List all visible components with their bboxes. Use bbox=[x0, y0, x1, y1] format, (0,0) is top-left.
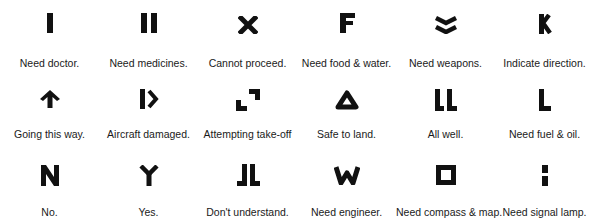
signal-label: Safe to land. bbox=[297, 128, 396, 141]
x-cross-icon bbox=[238, 16, 258, 34]
signal-need-medicines: Need medicines. bbox=[99, 0, 198, 75]
letter-y-icon bbox=[139, 165, 159, 186]
square-icon bbox=[435, 165, 457, 185]
signal-need-compass-map: Need compass & map. bbox=[396, 150, 495, 223]
single-bar-icon bbox=[45, 13, 55, 33]
letter-f-icon bbox=[339, 13, 355, 33]
signal-need-fuel-oil: Need fuel & oil. bbox=[495, 75, 594, 150]
signal-need-weapons: Need weapons. bbox=[396, 0, 495, 75]
signal-label: Need compass & map. bbox=[396, 206, 495, 219]
signal-cannot-proceed: Cannot proceed. bbox=[198, 0, 297, 75]
signal-label: Going this way. bbox=[0, 128, 99, 141]
bar-and-chevron-icon bbox=[139, 89, 159, 109]
signal-label: No. bbox=[0, 206, 99, 219]
letter-n-icon bbox=[40, 165, 60, 186]
signal-label: Need medicines. bbox=[99, 57, 198, 70]
signal-need-food-water: Need food & water. bbox=[297, 0, 396, 75]
signal-need-doctor: Need doctor. bbox=[0, 0, 99, 75]
signal-label: Yes. bbox=[99, 206, 198, 219]
signal-need-engineer: Need engineer. bbox=[297, 150, 396, 223]
signal-label: Indicate direction. bbox=[495, 57, 594, 70]
signal-all-well: All well. bbox=[396, 75, 495, 150]
signal-indicate-direction: Indicate direction. bbox=[495, 0, 594, 75]
signal-attempting-take-off: Attempting take-off bbox=[198, 75, 297, 150]
split-bar-icon bbox=[541, 165, 549, 187]
double-bar-icon bbox=[140, 13, 158, 33]
signal-label: All well. bbox=[396, 128, 495, 141]
signal-yes: Yes. bbox=[99, 150, 198, 223]
signal-aircraft-damaged: Aircraft damaged. bbox=[99, 75, 198, 150]
signal-label: Don't understand. bbox=[198, 206, 297, 219]
signal-label: Need food & water. bbox=[297, 57, 396, 70]
double-l-icon bbox=[434, 89, 458, 111]
double-chevron-down-icon bbox=[434, 16, 458, 34]
signal-label: Cannot proceed. bbox=[198, 57, 297, 70]
arrow-up-icon bbox=[40, 90, 60, 108]
signal-label: Need doctor. bbox=[0, 57, 99, 70]
signal-no: No. bbox=[0, 150, 99, 223]
letter-w-icon bbox=[334, 165, 360, 185]
signal-label: Attempting take-off bbox=[198, 128, 297, 141]
mirrored-double-l-icon bbox=[235, 164, 261, 186]
letter-k-icon bbox=[538, 14, 552, 34]
signal-going-this-way: Going this way. bbox=[0, 75, 99, 150]
signal-label: Need weapons. bbox=[396, 57, 495, 70]
letter-l-icon bbox=[538, 89, 552, 111]
signal-label: Aircraft damaged. bbox=[99, 128, 198, 141]
signal-label: Need fuel & oil. bbox=[495, 128, 594, 141]
triangle-icon bbox=[335, 90, 359, 110]
signal-dont-understand: Don't understand. bbox=[198, 150, 297, 223]
two-corners-icon bbox=[235, 89, 261, 111]
signal-need-signal-lamp: Need signal lamp. bbox=[495, 150, 594, 223]
signal-label: Need signal lamp. bbox=[495, 206, 594, 219]
signal-label: Need engineer. bbox=[297, 206, 396, 219]
signal-safe-to-land: Safe to land. bbox=[297, 75, 396, 150]
